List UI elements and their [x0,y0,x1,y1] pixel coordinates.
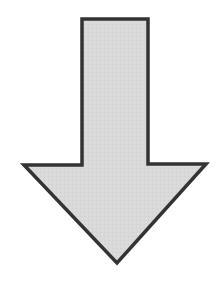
diagram-canvas [0,0,224,287]
down-arrow-icon [24,19,206,263]
